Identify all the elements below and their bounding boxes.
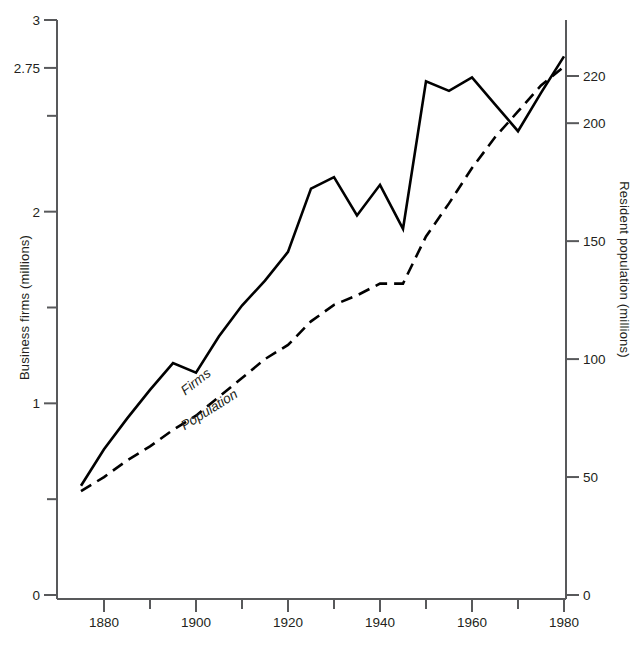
- series-path-population: [81, 67, 564, 492]
- data-series-group: [81, 56, 564, 491]
- left-axis-ticks: [44, 20, 57, 595]
- bottom-tick-label-1960: 1960: [457, 615, 487, 630]
- left-tick-label-2: 2: [32, 204, 40, 219]
- bottom-tick-label-1980: 1980: [549, 615, 579, 630]
- left-tick-label-0: 0: [32, 588, 40, 603]
- left-tick-label-3: 3: [32, 13, 40, 28]
- bottom-tick-label-1880: 1880: [89, 615, 119, 630]
- left-tick-label-1: 1: [32, 396, 40, 411]
- left-tick-label-2.75: 2.75: [14, 60, 40, 75]
- right-tick-label-200: 200: [583, 116, 606, 131]
- right-tick-label-0: 0: [583, 588, 591, 603]
- bottom-tick-label-1940: 1940: [365, 615, 395, 630]
- right-axis-ticks: [566, 76, 579, 595]
- bottom-tick-label-1900: 1900: [181, 615, 211, 630]
- axis-lines: [57, 20, 566, 599]
- right-tick-label-50: 50: [583, 470, 598, 485]
- series-path-firms: [81, 56, 564, 485]
- right-tick-label-100: 100: [583, 352, 606, 367]
- bottom-tick-label-1920: 1920: [273, 615, 303, 630]
- right-tick-label-150: 150: [583, 234, 606, 249]
- right-axis-title: Resident population (millions): [617, 140, 632, 400]
- left-axis-title: Business firms (millions): [17, 198, 32, 418]
- bottom-axis-ticks: [104, 599, 564, 612]
- right-tick-label-220: 220: [583, 69, 606, 84]
